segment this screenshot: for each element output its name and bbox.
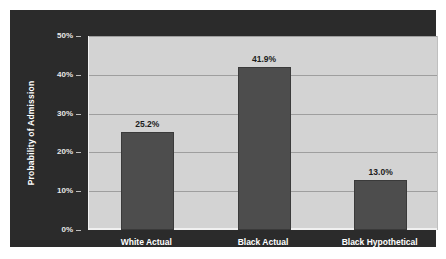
plot-area: 25.2%41.9%13.0% bbox=[88, 36, 438, 230]
x-axis-category-label: Black Hypothetical bbox=[321, 235, 438, 249]
bar-value-label: 13.0% bbox=[341, 166, 421, 178]
y-axis-tick-mark bbox=[76, 152, 81, 153]
bar bbox=[121, 132, 174, 230]
y-axis-tick-label: 50% bbox=[57, 30, 73, 42]
y-axis-tick-mark bbox=[76, 191, 81, 192]
y-axis-tick-label: 0% bbox=[61, 224, 73, 236]
bar-value-label: 25.2% bbox=[107, 118, 187, 130]
x-axis-category-labels: White ActualBlack ActualBlack Hypothetic… bbox=[88, 232, 438, 254]
y-axis-tick-label: 10% bbox=[57, 185, 73, 197]
bar bbox=[238, 67, 291, 230]
x-axis-category-label: White Actual bbox=[88, 235, 205, 249]
y-axis-tick-label: 30% bbox=[57, 108, 73, 120]
y-axis-tick-mark bbox=[76, 75, 81, 76]
y-axis-tick-labels: 0%10%20%30%40%50% bbox=[43, 30, 81, 236]
bar bbox=[354, 180, 407, 230]
y-axis-tick-label: 20% bbox=[57, 146, 73, 158]
y-axis-tick-mark bbox=[76, 230, 81, 231]
y-axis-title: Probability of Admission bbox=[23, 36, 39, 230]
gridline bbox=[89, 36, 437, 37]
x-axis-category-label: Black Actual bbox=[205, 235, 322, 249]
y-axis-tick-label: 40% bbox=[57, 69, 73, 81]
bar-chart-figure: Probability of Admission 0%10%20%30%40%5… bbox=[0, 0, 446, 259]
y-axis-tick-mark bbox=[76, 36, 81, 37]
y-axis-tick-mark bbox=[76, 114, 81, 115]
chart-panel: Probability of Admission 0%10%20%30%40%5… bbox=[10, 10, 436, 247]
bar-value-label: 41.9% bbox=[224, 53, 304, 65]
